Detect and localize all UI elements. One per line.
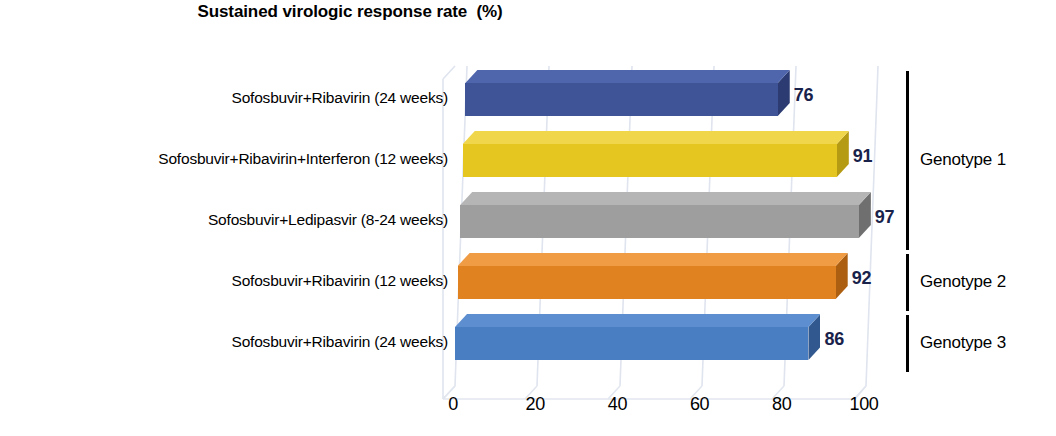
bar-3 xyxy=(460,205,859,238)
data-label-4: 92 xyxy=(852,268,871,289)
bar-4 xyxy=(458,266,836,299)
bar-3-top-face xyxy=(460,192,871,205)
tick-label-80: 80 xyxy=(772,394,791,415)
genotype-bracket-2 xyxy=(906,254,909,311)
tick-label-60: 60 xyxy=(690,394,709,415)
bar-5-front-face xyxy=(455,327,808,360)
data-label-1: 76 xyxy=(794,85,813,106)
category-label-2: Sofosbuvir+Ribavirin+Interferon (12 week… xyxy=(0,150,448,168)
data-label-2: 91 xyxy=(853,146,872,167)
category-label-5: Sofosbuvir+Ribavirin (24 weeks) xyxy=(0,333,448,351)
genotype-bracket-3 xyxy=(906,315,909,372)
tick-label-20: 20 xyxy=(525,394,544,415)
data-label-5: 86 xyxy=(824,329,843,350)
genotype-label-2: Genotype 2 xyxy=(920,272,1006,292)
genotype-label-1: Genotype 1 xyxy=(920,150,1006,170)
tick-label-40: 40 xyxy=(608,394,627,415)
category-label-3: Sofosbuvir+Ledipasvir (8-24 weeks) xyxy=(0,211,448,229)
tick-label-100: 100 xyxy=(849,394,878,415)
bar-5-top-face xyxy=(455,314,820,327)
bar-4-front-face xyxy=(458,266,836,299)
tick-label-0: 0 xyxy=(448,394,458,415)
genotype-bracket-1 xyxy=(906,71,909,250)
bar-4-top-face xyxy=(458,253,848,266)
bar-3-front-face xyxy=(460,205,859,238)
category-label-1: Sofosbuvir+Ribavirin (24 weeks) xyxy=(0,89,448,107)
category-label-4: Sofosbuvir+Ribavirin (12 weeks) xyxy=(0,272,448,290)
bar-1-front-face xyxy=(465,83,777,116)
data-label-3: 97 xyxy=(875,207,894,228)
bar-2-top-face xyxy=(463,131,849,144)
bar-1 xyxy=(465,83,777,116)
chart-title: Sustained virologic response rate (%) xyxy=(0,2,700,22)
genotype-label-3: Genotype 3 xyxy=(920,333,1006,353)
bar-1-top-face xyxy=(465,70,789,83)
bar-2 xyxy=(463,144,837,177)
bar-5 xyxy=(455,327,808,360)
bar-2-front-face xyxy=(463,144,837,177)
